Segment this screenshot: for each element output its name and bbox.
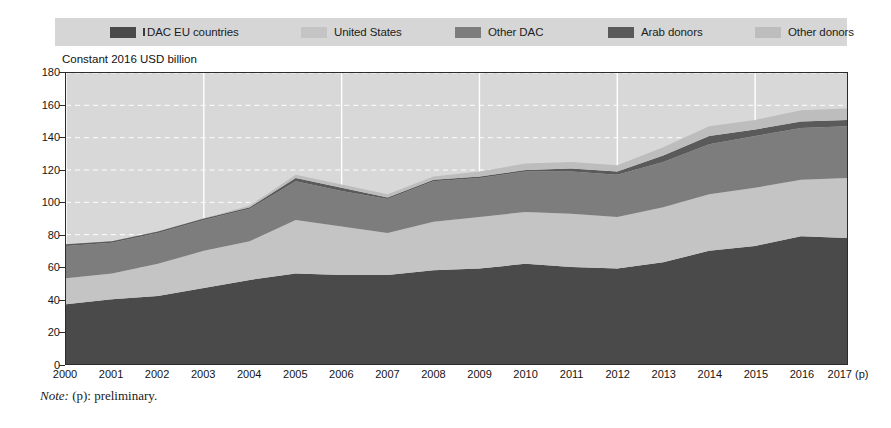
legend-item[interactable]: Other donors: [755, 18, 854, 46]
legend-label: DAC EU countries: [147, 26, 239, 38]
x-axis-tick-label: 2009: [467, 368, 491, 380]
note-text: (p): preliminary.: [69, 388, 157, 403]
y-axis-tick-mark: [59, 365, 65, 366]
y-axis-tick-label: 180: [26, 66, 60, 78]
x-axis-tick-label: 2015: [744, 368, 768, 380]
y-axis-tick-label: 120: [26, 164, 60, 176]
y-axis-tick-label: 60: [26, 261, 60, 273]
y-axis-labels: 020406080100120140160180: [20, 72, 60, 365]
legend-item[interactable]: Arab donors: [608, 18, 703, 46]
y-axis-tick-label: 140: [26, 131, 60, 143]
legend-swatch-icon: [455, 27, 481, 38]
y-axis-tick-label: 160: [26, 99, 60, 111]
x-axis-tick-label: 2007: [375, 368, 399, 380]
x-axis-tick-label: 2002: [145, 368, 169, 380]
stacked-area-svg: [66, 73, 847, 364]
x-axis-tick-label: 2005: [283, 368, 307, 380]
x-axis-tick-label: 2006: [329, 368, 353, 380]
legend-item[interactable]: DAC EU countries: [110, 18, 239, 46]
y-axis-tick-label: 100: [26, 196, 60, 208]
y-axis-tick-label: 40: [26, 294, 60, 306]
legend-label: United States: [334, 26, 402, 38]
legend-swatch-icon: [110, 27, 136, 38]
x-axis-tick-label: 2014: [698, 368, 722, 380]
plot-area-wrapper: [65, 72, 848, 365]
y-axis-tick-label: 20: [26, 326, 60, 338]
x-axis-tick-label: 2016: [790, 368, 814, 380]
x-axis-tick-label: 2008: [421, 368, 445, 380]
x-axis-tick-label: 2010: [513, 368, 537, 380]
x-axis-tick-label: 2004: [237, 368, 261, 380]
note-prefix: Note:: [40, 388, 69, 403]
legend-label: Other DAC: [488, 26, 543, 38]
x-axis-tick-label: 2000: [53, 368, 77, 380]
x-axis-tick-label: 2011: [560, 368, 584, 380]
legend-item[interactable]: Other DAC: [455, 18, 543, 46]
legend-label: Arab donors: [641, 26, 703, 38]
x-axis-tick-label: 2001: [99, 368, 123, 380]
x-axis-tick-label: 2017 (p): [828, 368, 869, 380]
legend-swatch-icon: [301, 27, 327, 38]
plot-area: [65, 72, 848, 365]
x-axis-tick-label: 2013: [652, 368, 676, 380]
y-axis-tick-label: 80: [26, 229, 60, 241]
x-axis-tick-label: 2012: [605, 368, 629, 380]
y-axis-title: Constant 2016 USD billion: [62, 53, 197, 65]
legend-swatch-icon: [608, 27, 634, 38]
legend-swatch-icon: [755, 27, 781, 38]
x-axis-tick-label: 2003: [191, 368, 215, 380]
figure-note: Note: (p): preliminary.: [40, 388, 157, 404]
chart-legend: DAC EU countriesUnited StatesOther DACAr…: [55, 18, 847, 46]
legend-tick-icon: [143, 28, 145, 36]
x-axis-labels: 2000200120022003200420052006200720082009…: [65, 368, 848, 384]
legend-label: Other donors: [788, 26, 854, 38]
legend-item[interactable]: United States: [301, 18, 402, 46]
area-series-group: [66, 109, 847, 364]
figure-root: DAC EU countriesUnited StatesOther DACAr…: [0, 0, 891, 428]
